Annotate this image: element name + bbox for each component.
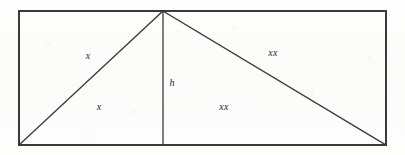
label-right-side: xx bbox=[268, 48, 277, 58]
geometry-canvas bbox=[0, 0, 405, 155]
geometry-figure: x x h xx xx bbox=[0, 0, 405, 155]
label-right-region: xx bbox=[219, 102, 228, 112]
outer-rectangle bbox=[19, 11, 386, 145]
right-slant-side bbox=[163, 11, 386, 145]
label-left-side: x bbox=[86, 51, 91, 61]
label-altitude: h bbox=[169, 78, 174, 88]
left-slant-side bbox=[19, 11, 163, 145]
label-left-region: x bbox=[97, 102, 102, 112]
